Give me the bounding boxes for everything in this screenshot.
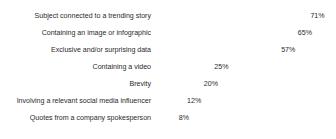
bar-row: Quotes from a company spokesperson 8% xyxy=(0,113,336,124)
value-label: 25% xyxy=(214,62,228,73)
bar-row: Containing an image or infographic 65% xyxy=(0,28,336,39)
category-label: Containing an image or infographic xyxy=(0,28,151,39)
value-label: 20% xyxy=(204,79,218,90)
bar-track xyxy=(157,45,276,56)
category-label: Subject connected to a trending story xyxy=(0,11,151,22)
bar-track xyxy=(157,79,199,90)
category-label: Brevity xyxy=(0,79,151,90)
bar-track xyxy=(157,113,174,124)
category-label: Exclusive and/or surprising data xyxy=(0,45,151,56)
bar-track xyxy=(157,96,182,107)
value-label: 71% xyxy=(310,11,324,22)
category-label: Involving a relevant social media influe… xyxy=(0,96,151,107)
value-label: 8% xyxy=(179,113,189,124)
category-label: Containing a video xyxy=(0,62,151,73)
value-label: 12% xyxy=(187,96,201,107)
value-label: 65% xyxy=(298,28,312,39)
bar-row: Subject connected to a trending story 71… xyxy=(0,11,336,22)
bar-row: Containing a video 25% xyxy=(0,62,336,73)
bar-track xyxy=(157,28,293,39)
bar-track xyxy=(157,11,305,22)
bar-track xyxy=(157,62,209,73)
bar-row: Exclusive and/or surprising data 57% xyxy=(0,45,336,56)
category-label: Quotes from a company spokesperson xyxy=(0,113,151,124)
value-label: 57% xyxy=(281,45,295,56)
bar-row: Involving a relevant social media influe… xyxy=(0,96,336,107)
bar-row: Brevity 20% xyxy=(0,79,336,90)
horizontal-bar-chart: Subject connected to a trending story 71… xyxy=(0,0,336,139)
